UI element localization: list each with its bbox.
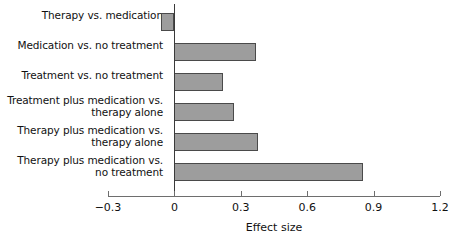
x-axis-tick xyxy=(307,191,308,196)
x-axis-tick xyxy=(374,191,375,196)
x-axis-tick-label: 1.2 xyxy=(431,202,449,214)
x-axis-tick-label: 0.3 xyxy=(232,202,250,214)
bar-treatment-plus-medication-vs-therapy-alone[interactable] xyxy=(174,103,234,121)
zero-reference-line xyxy=(174,4,175,196)
bar-therapy-plus-medication-vs-therapy-alone[interactable] xyxy=(174,133,258,151)
bar-treatment-vs-no-treatment[interactable] xyxy=(174,73,223,91)
x-axis-tick xyxy=(108,191,109,196)
x-axis-title: Effect size xyxy=(246,221,302,234)
x-axis-tick-label: −0.3 xyxy=(95,202,122,214)
bar-therapy-plus-medication-vs-no-treatment[interactable] xyxy=(174,163,362,181)
bar-therapy-vs-medication[interactable] xyxy=(161,13,174,31)
x-axis-tick xyxy=(440,191,441,196)
bar-medication-vs-no-treatment[interactable] xyxy=(174,43,256,61)
x-axis-tick-label: 0.9 xyxy=(365,202,383,214)
x-axis-tick-label: 0 xyxy=(171,202,178,214)
plot-area: Therapy vs. medication Medication vs. no… xyxy=(0,0,447,196)
x-axis-line xyxy=(108,196,440,197)
bars-layer xyxy=(0,0,447,196)
x-axis-tick xyxy=(241,191,242,196)
x-axis-tick-label: 0.6 xyxy=(298,202,316,214)
x-axis-tick xyxy=(174,191,175,196)
